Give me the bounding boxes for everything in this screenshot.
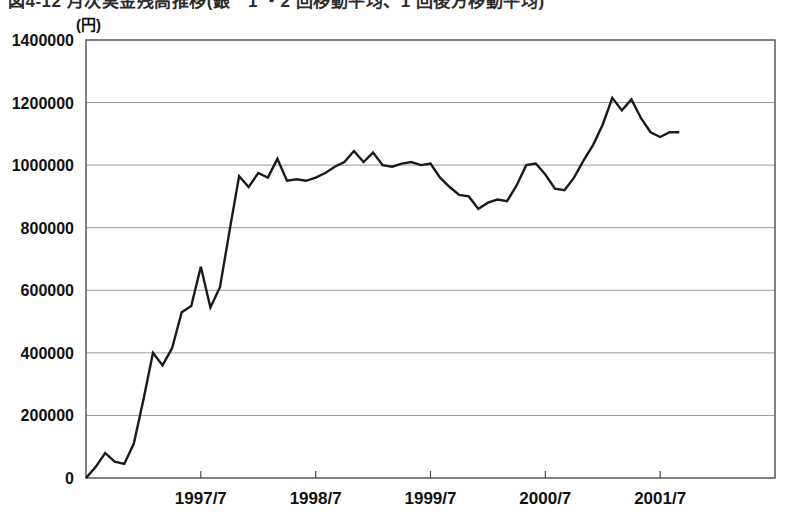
data-series-line (86, 98, 679, 478)
line-chart-svg: 0200000400000600000800000100000012000001… (0, 0, 793, 523)
y-axis-tick-label: 200000 (21, 407, 74, 424)
y-axis-tick-label: 1400000 (12, 32, 74, 49)
x-axis-tick-label: 1999/7 (405, 489, 457, 508)
x-axis-tick-label: 2000/7 (519, 489, 571, 508)
y-axis-tick-label: 0 (65, 470, 74, 487)
chart-figure: 図4-12 月次実金残高推移(銀 1 ・2 回移動平均、1 回後方移動平均) (… (0, 0, 793, 523)
y-axis-tick-label: 800000 (21, 220, 74, 237)
y-axis-tick-label: 1200000 (12, 95, 74, 112)
plot-frame (86, 40, 775, 478)
x-axis-tick-label: 2001/7 (634, 489, 686, 508)
x-axis-tick-label: 1998/7 (290, 489, 342, 508)
y-axis-tick-label: 1000000 (12, 157, 74, 174)
y-axis-tick-label: 600000 (21, 282, 74, 299)
x-axis-tick-label: 1997/7 (175, 489, 227, 508)
y-axis-tick-label: 400000 (21, 345, 74, 362)
